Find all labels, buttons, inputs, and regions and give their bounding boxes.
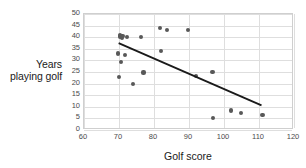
scatter-chart: Years playing golf 05101520253035404550 …	[0, 0, 306, 168]
y-tick-label: 50	[62, 9, 80, 17]
y-tick-label: 30	[62, 55, 80, 63]
x-axis-title: Golf score	[83, 150, 293, 162]
x-tick-label: 120	[281, 132, 305, 141]
y-axis-title-line-2: playing golf	[0, 70, 62, 82]
trend-line	[84, 14, 292, 128]
x-tick-label: 60	[71, 132, 95, 141]
gridline-horizontal	[84, 130, 292, 131]
y-tick-label: 5	[62, 113, 80, 121]
gridline-vertical	[294, 14, 295, 128]
y-tick-label: 35	[62, 44, 80, 52]
y-tick-label: 45	[62, 21, 80, 29]
y-axis-title: Years playing golf	[0, 58, 62, 82]
y-tick-label: 10	[62, 102, 80, 110]
x-tick-label: 100	[211, 132, 235, 141]
y-axis-title-line-1: Years	[0, 58, 62, 70]
y-tick-label: 40	[62, 32, 80, 40]
x-tick-label: 70	[106, 132, 130, 141]
y-tick-label: 15	[62, 90, 80, 98]
x-tick-label: 110	[246, 132, 270, 141]
x-axis-tick-labels: 60708090100110120	[83, 132, 293, 144]
y-tick-label: 25	[62, 67, 80, 75]
plot-area	[83, 13, 293, 129]
x-tick-label: 80	[141, 132, 165, 141]
y-tick-label: 20	[62, 79, 80, 87]
x-tick-label: 90	[176, 132, 200, 141]
y-axis-tick-labels: 05101520253035404550	[60, 13, 80, 129]
